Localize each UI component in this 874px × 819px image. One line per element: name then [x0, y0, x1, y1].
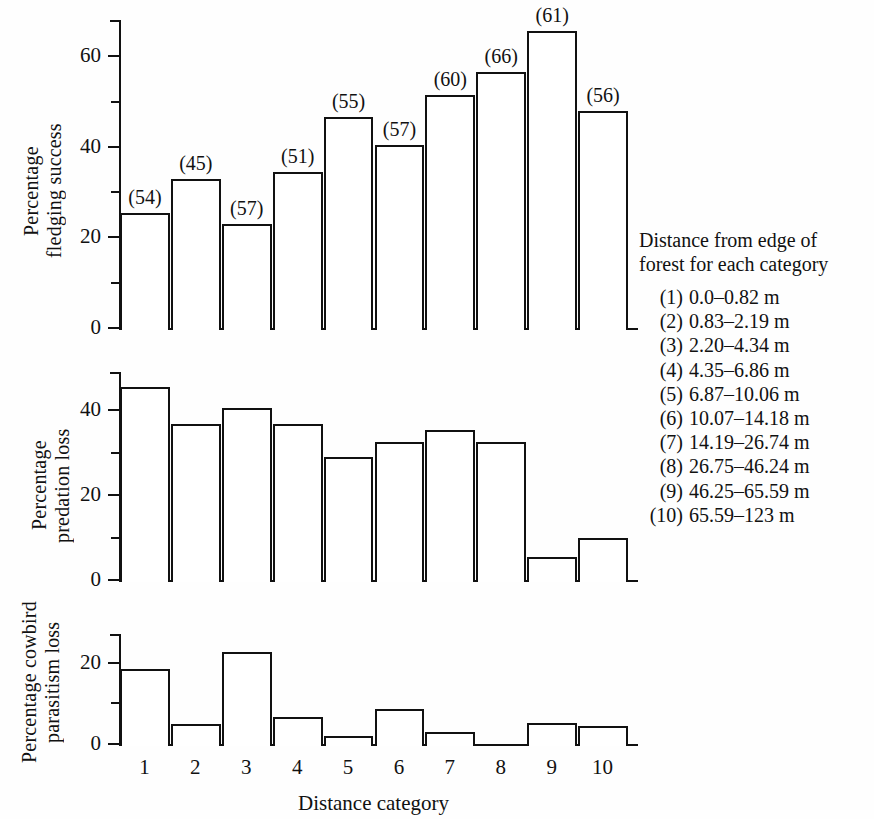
x-tick-label-1: 1 — [119, 757, 170, 778]
x-tick-label-9: 9 — [526, 757, 577, 778]
legend-item-range: 14.19–26.74 m — [689, 430, 810, 454]
y-tick-label-panel-3-20: 20 — [49, 652, 101, 673]
legend-item: (1)0.0–0.82 m — [639, 285, 874, 309]
legend-title: Distance from edge of forest for each ca… — [639, 228, 874, 276]
y-axis-top-cap-panel-3 — [110, 634, 119, 636]
legend-item: (10)65.59–123 m — [639, 503, 874, 527]
x-tick-label-6: 6 — [374, 757, 425, 778]
legend-item: (5)6.87–10.06 m — [639, 382, 874, 406]
legend-item: (7)14.19–26.74 m — [639, 430, 874, 454]
legend-item: (4)4.35–6.86 m — [639, 358, 874, 382]
y-tick-label-panel-3-0: 0 — [49, 733, 101, 754]
legend-item-range: 2.20–4.34 m — [689, 333, 790, 357]
legend-item-number: (4) — [639, 358, 689, 382]
x-tick-label-8: 8 — [475, 757, 526, 778]
legend-item-range: 4.35–6.86 m — [689, 358, 790, 382]
x-tick-label-3: 3 — [221, 757, 272, 778]
legend-item: (2)0.83–2.19 m — [639, 309, 874, 333]
legend-item: (9)46.25–65.59 m — [639, 479, 874, 503]
legend-item-number: (8) — [639, 454, 689, 478]
legend-item-range: 6.87–10.06 m — [689, 382, 800, 406]
legend-item-range: 65.59–123 m — [689, 503, 795, 527]
y-tick-major-panel-3-20 — [108, 662, 119, 664]
legend-distance-categories: Distance from edge of forest for each ca… — [639, 228, 874, 527]
bar-panel-3-category-2 — [171, 724, 221, 746]
bar-panel-3-category-1 — [120, 669, 170, 746]
legend-item-number: (6) — [639, 406, 689, 430]
x-tick-label-10: 10 — [577, 757, 628, 778]
y-tick-major-panel-3-0 — [108, 743, 119, 745]
legend-item-number: (2) — [639, 309, 689, 333]
x-tick-label-2: 2 — [170, 757, 221, 778]
legend-item-range: 0.83–2.19 m — [689, 309, 790, 333]
x-tick-label-7: 7 — [424, 757, 475, 778]
legend-item-number: (9) — [639, 479, 689, 503]
y-tick-minor-panel-3-10 — [111, 702, 119, 704]
legend-item-number: (7) — [639, 430, 689, 454]
x-axis-title: Distance category — [119, 791, 628, 816]
bar-panel-3-category-10 — [578, 726, 628, 746]
legend-item: (3)2.20–4.34 m — [639, 333, 874, 357]
bar-panel-3-category-5 — [324, 736, 374, 746]
legend-item-range: 0.0–0.82 m — [689, 285, 780, 309]
x-tick-label-5: 5 — [323, 757, 374, 778]
legend-item-range: 26.75–46.24 m — [689, 454, 810, 478]
bar-panel-3-category-9 — [527, 723, 577, 746]
legend-item-number: (10) — [639, 503, 689, 527]
legend-item-range: 10.07–14.18 m — [689, 406, 810, 430]
figure-three-panel-barchart: Percentage fledging success0204060(54)(4… — [0, 0, 874, 819]
legend-item: (6)10.07–14.18 m — [639, 406, 874, 430]
bar-panel-3-category-6 — [375, 709, 425, 746]
bar-panel-3-category-4 — [273, 717, 323, 746]
legend-item-range: 46.25–65.59 m — [689, 479, 810, 503]
legend-item-number: (3) — [639, 333, 689, 357]
bar-panel-3-category-7 — [425, 732, 475, 746]
legend-item: (8)26.75–46.24 m — [639, 454, 874, 478]
bar-panel-3-category-3 — [222, 652, 272, 746]
x-tick-label-4: 4 — [272, 757, 323, 778]
legend-item-list: (1)0.0–0.82 m(2)0.83–2.19 m(3)2.20–4.34 … — [639, 285, 874, 527]
legend-item-number: (1) — [639, 285, 689, 309]
legend-item-number: (5) — [639, 382, 689, 406]
